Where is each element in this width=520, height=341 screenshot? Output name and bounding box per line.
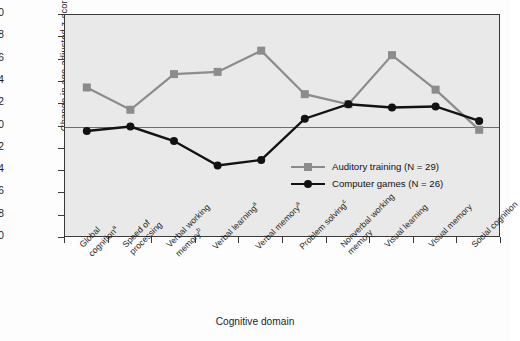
y-tick-label: 0.8: [0, 30, 4, 40]
x-tick-mark: [413, 237, 414, 243]
data-point-marker: [257, 156, 265, 164]
x-tick-mark: [500, 237, 501, 243]
data-point-marker: [388, 51, 396, 59]
data-point-marker: [126, 106, 134, 114]
data-point-marker: [301, 115, 309, 123]
y-tick-label: 0.6: [0, 53, 4, 63]
x-tick-mark: [238, 237, 239, 243]
data-point-marker: [170, 137, 178, 145]
legend-item: Computer games (N = 26): [291, 175, 491, 192]
data-point-marker: [475, 126, 483, 134]
x-tick-mark: [282, 237, 283, 243]
data-point-marker: [432, 102, 440, 110]
data-point-marker: [344, 100, 352, 108]
data-point-marker: [475, 117, 483, 125]
legend-label: Computer games (N = 26): [332, 178, 443, 189]
y-tick-label: −1.0: [0, 231, 4, 241]
y-tick-label: 0.2: [0, 97, 4, 107]
data-point-marker: [126, 123, 134, 131]
legend-square-marker-icon: [291, 161, 325, 173]
x-axis-title: Cognitive domain: [0, 316, 510, 327]
x-tick-mark: [456, 237, 457, 243]
x-tick-mark: [326, 237, 327, 243]
y-tick-label: 0: [0, 120, 4, 130]
x-tick-mark: [64, 237, 65, 243]
data-point-marker: [388, 104, 396, 112]
y-tick-label: −0.6: [0, 186, 4, 196]
data-point-marker: [83, 83, 91, 91]
data-point-marker: [432, 86, 440, 94]
plot-area: Auditory training (N = 29)Computer games…: [64, 14, 500, 237]
legend-item: Auditory training (N = 29): [291, 158, 491, 175]
series-auditory-training: [83, 47, 483, 134]
chart-legend: Auditory training (N = 29)Computer games…: [291, 158, 491, 192]
data-point-marker: [257, 47, 265, 55]
y-tick-label: −0.4: [0, 164, 4, 174]
legend-circle-marker-icon: [291, 178, 325, 190]
y-tick-label: 0.4: [0, 75, 4, 85]
data-series-layer: [65, 15, 501, 238]
data-point-marker: [301, 90, 309, 98]
y-tick-label: −0.8: [0, 209, 4, 219]
data-point-marker: [170, 70, 178, 78]
legend-label: Auditory training (N = 29): [332, 161, 439, 172]
y-tick-label: −0.2: [0, 142, 4, 152]
data-point-marker: [214, 68, 222, 76]
data-point-marker: [83, 127, 91, 135]
series-line: [87, 104, 479, 165]
y-tick-label: 1.0: [0, 8, 4, 18]
series-line: [87, 51, 479, 130]
data-point-marker: [214, 162, 222, 170]
